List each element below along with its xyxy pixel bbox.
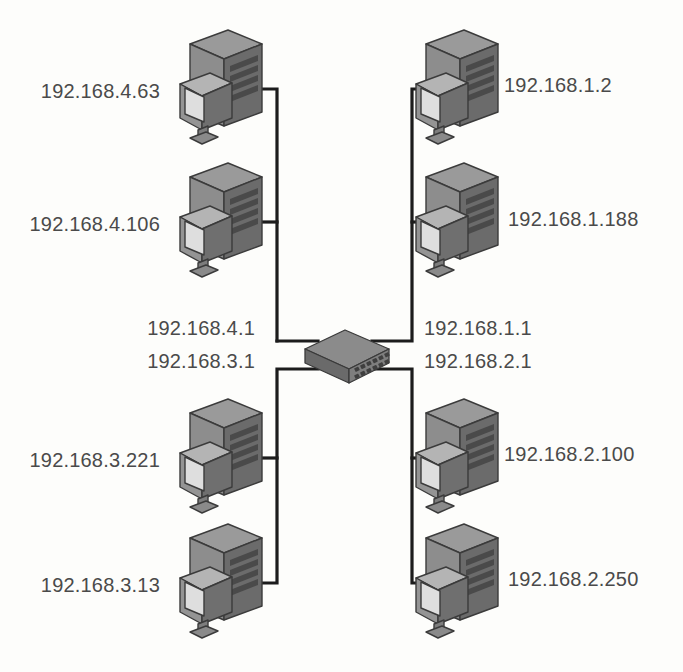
host-icon-192-168-2-250[interactable] <box>412 520 508 648</box>
host-label-192-168-3-221: 192.168.3.221 <box>0 449 160 472</box>
host-icon-192-168-4-106[interactable] <box>176 159 272 287</box>
host-label-192-168-1-188: 192.168.1.188 <box>508 208 683 231</box>
gateway-label-192-168-1-1: 192.168.1.1 <box>424 317 624 340</box>
network-diagram: 192.168.4.63 192.168.4. <box>0 0 683 672</box>
host-label-192-168-4-106: 192.168.4.106 <box>0 213 160 236</box>
host-label-192-168-1-2: 192.168.1.2 <box>504 74 679 97</box>
gateway-label-192-168-2-1: 192.168.2.1 <box>424 350 624 373</box>
host-icon-192-168-4-63[interactable] <box>176 26 272 154</box>
gateway-label-192-168-3-1: 192.168.3.1 <box>10 350 255 373</box>
host-label-192-168-2-100: 192.168.2.100 <box>504 443 683 466</box>
host-icon-192-168-1-2[interactable] <box>412 26 508 154</box>
host-icon-192-168-3-221[interactable] <box>176 395 272 523</box>
network-switch-icon[interactable] <box>301 327 393 389</box>
host-label-192-168-2-250: 192.168.2.250 <box>508 568 683 591</box>
gateway-label-192-168-4-1: 192.168.4.1 <box>10 317 255 340</box>
host-icon-192-168-2-100[interactable] <box>412 395 508 523</box>
host-icon-192-168-1-188[interactable] <box>412 159 508 287</box>
host-icon-192-168-3-13[interactable] <box>176 520 272 648</box>
host-label-192-168-4-63: 192.168.4.63 <box>0 80 160 103</box>
host-label-192-168-3-13: 192.168.3.13 <box>0 574 160 597</box>
